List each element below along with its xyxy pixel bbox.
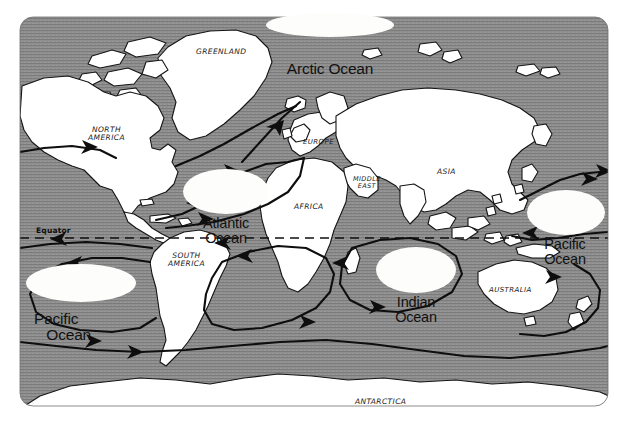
continent-label-australia: AUSTRALIA bbox=[489, 287, 532, 295]
ocean-label-text: Pacific Ocean bbox=[34, 311, 126, 343]
continent-label-south-america: SOUTH AMERICA bbox=[168, 252, 205, 269]
label-blob bbox=[183, 169, 269, 214]
continent-label-africa: AFRICA bbox=[294, 203, 324, 211]
ocean-label-text: Arctic Ocean bbox=[274, 61, 386, 77]
continent-label-europe: EUROPE bbox=[303, 139, 334, 147]
ocean-label-pacific-ocean-west: Pacific Ocean bbox=[34, 264, 126, 304]
world-ocean-currents-map: Equator Arctic Ocean Atlantic Ocean Indi… bbox=[0, 0, 628, 423]
ocean-label-arctic-ocean: Arctic Ocean bbox=[274, 14, 386, 38]
landmass-philippines bbox=[486, 206, 496, 216]
ocean-label-atlantic-ocean: Atlantic Ocean bbox=[190, 172, 262, 212]
landmass-tasmania bbox=[524, 316, 536, 326]
ocean-label-text: Indian Ocean bbox=[384, 295, 448, 325]
continent-label-greenland: GREENLAND bbox=[196, 48, 246, 56]
label-blob bbox=[527, 190, 605, 235]
label-blob bbox=[266, 13, 394, 37]
landmass-japan bbox=[514, 184, 524, 194]
continent-label-north-america: NORTH AMERICA bbox=[88, 126, 125, 143]
continent-label-asia: ASIA bbox=[437, 168, 456, 176]
ocean-label-pacific-ocean-east: Pacific Ocean bbox=[535, 193, 595, 233]
label-blob bbox=[26, 264, 136, 302]
continent-label-middle-east: MIDDLE EAST bbox=[353, 176, 381, 191]
continent-label-antarctica: ANTARCTICA bbox=[355, 398, 406, 406]
equator-label: Equator bbox=[36, 226, 71, 235]
ocean-label-text: Atlantic Ocean bbox=[190, 216, 262, 246]
label-blob bbox=[376, 247, 456, 293]
ocean-label-text: Pacific Ocean bbox=[535, 237, 595, 267]
landmass-philippines bbox=[492, 194, 502, 204]
ocean-label-indian-ocean: Indian Ocean bbox=[384, 251, 448, 291]
